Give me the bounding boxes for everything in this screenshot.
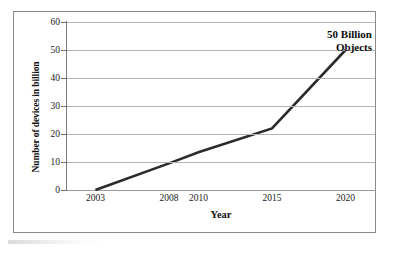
y-tick-mark-20 bbox=[61, 134, 67, 135]
annotation-50-billion-objects: 50 Billion Objects bbox=[236, 28, 372, 54]
series-polyline bbox=[95, 50, 345, 190]
gridline-y-60 bbox=[66, 22, 375, 23]
gridline-y-30 bbox=[66, 106, 375, 107]
y-tick-mark-40 bbox=[61, 78, 67, 79]
gridline-y-40 bbox=[66, 78, 375, 79]
y-axis-tick-labels: 0102030405060 bbox=[36, 0, 60, 254]
x-tick-label-2010: 2010 bbox=[175, 193, 221, 203]
annotation-line-2: Objects bbox=[236, 41, 372, 54]
y-tick-label-10: 10 bbox=[38, 157, 60, 167]
x-tick-label-2003: 2003 bbox=[72, 193, 118, 203]
x-axis-title: Year bbox=[66, 209, 376, 220]
y-tick-label-40: 40 bbox=[38, 73, 60, 83]
y-tick-label-30: 30 bbox=[38, 101, 60, 111]
y-tick-mark-0 bbox=[61, 190, 67, 191]
annotation-line-1: 50 Billion bbox=[236, 28, 372, 41]
x-axis-line bbox=[66, 190, 376, 191]
gridline-y-10 bbox=[66, 162, 375, 163]
y-tick-label-50: 50 bbox=[38, 45, 60, 55]
y-tick-mark-50 bbox=[61, 50, 67, 51]
x-tick-label-2015: 2015 bbox=[249, 193, 295, 203]
y-tick-mark-30 bbox=[61, 106, 67, 107]
x-tick-label-2020: 2020 bbox=[323, 193, 369, 203]
y-tick-mark-10 bbox=[61, 162, 67, 163]
gridline-y-20 bbox=[66, 134, 375, 135]
y-tick-mark-60 bbox=[61, 22, 67, 23]
y-tick-label-20: 20 bbox=[38, 129, 60, 139]
y-tick-label-60: 60 bbox=[38, 17, 60, 27]
y-tick-label-0: 0 bbox=[38, 185, 60, 195]
